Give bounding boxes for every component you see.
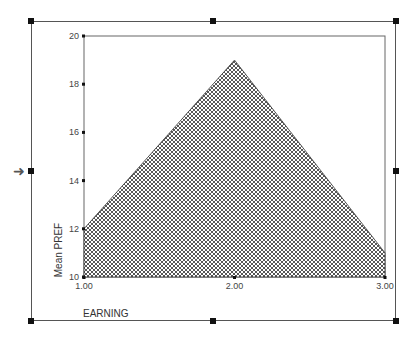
- area-chart: 101214161820 1.002.003.00 Mean PREF EARN…: [0, 0, 420, 341]
- y-tick-label: 18: [69, 79, 79, 89]
- y-tick-label: 20: [69, 31, 79, 41]
- x-axis-ticks: 1.002.003.00: [75, 276, 394, 291]
- x-tick-label: 3.00: [376, 281, 394, 291]
- y-axis-ticks: 101214161820: [69, 31, 85, 282]
- y-tick-label: 12: [69, 224, 79, 234]
- x-tick-label: 1.00: [75, 281, 93, 291]
- y-axis-title: Mean PREF: [53, 223, 64, 277]
- data-area: [84, 60, 385, 277]
- x-tick-label: 2.00: [226, 281, 244, 291]
- y-tick-label: 14: [69, 176, 79, 186]
- y-tick-label: 16: [69, 127, 79, 137]
- x-axis-title: EARNING: [83, 308, 129, 319]
